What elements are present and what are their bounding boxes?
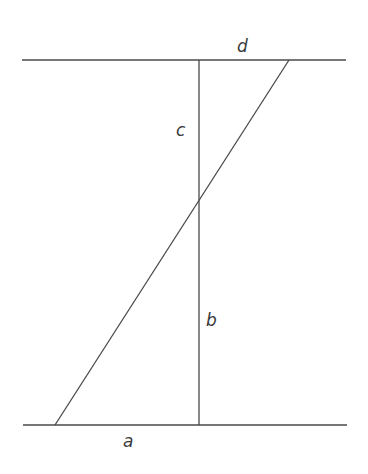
- label-b: b: [206, 310, 217, 330]
- diagonal-transversal: [55, 60, 289, 425]
- label-c: c: [176, 120, 186, 140]
- label-d: d: [237, 36, 248, 56]
- label-a: a: [123, 431, 133, 451]
- parallel-lines-diagram: d c b a: [0, 0, 368, 474]
